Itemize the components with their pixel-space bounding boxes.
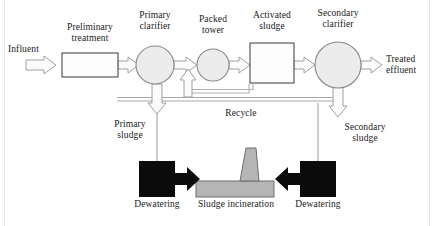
label-treated-effluent: Treated effluent xyxy=(386,54,432,76)
arrow-tower-to-activated xyxy=(229,57,250,73)
label-secondary-sludge: Secondary sludge xyxy=(334,122,396,144)
label-primary-sludge: Primary sludge xyxy=(104,119,156,141)
label-packed-tower: Packed tower xyxy=(185,14,241,36)
sludge-handling xyxy=(139,148,336,197)
arrow-activated-to-secondary xyxy=(294,57,315,73)
arrow-influent xyxy=(26,56,56,74)
label-primary-clarifier: Primary clarifier xyxy=(126,10,184,32)
unit-sludge-incineration-base xyxy=(196,181,274,197)
label-sludge-incineration: Sludge incineration xyxy=(191,199,281,210)
label-secondary-clarifier: Secondary clarifier xyxy=(306,8,370,30)
unit-sludge-incineration-stack xyxy=(240,148,259,181)
unit-secondary-clarifier xyxy=(315,42,361,88)
arrow-clarifier-to-tower xyxy=(174,57,197,73)
recycle-line-inner-b xyxy=(190,78,253,90)
unit-dewatering-primary xyxy=(139,161,175,197)
unit-packed-tower xyxy=(197,49,229,81)
unit-activated-sludge xyxy=(250,43,294,83)
label-influent: Influent xyxy=(8,44,52,55)
arrow-dewatering-secondary-to-incineration xyxy=(275,167,302,191)
unit-dewatering-secondary xyxy=(300,161,336,197)
label-preliminary-treatment: Preliminary treatment xyxy=(62,22,118,44)
unit-preliminary-treatment xyxy=(62,53,118,77)
process-vessels xyxy=(62,42,361,88)
label-recycle: Recycle xyxy=(216,108,266,119)
label-dewatering-secondary: Dewatering xyxy=(284,199,352,210)
label-dewatering-primary: Dewatering xyxy=(123,199,191,210)
unit-primary-clarifier xyxy=(136,46,174,84)
arrow-primary-sludge-down xyxy=(148,84,166,114)
arrow-treated-effluent xyxy=(361,57,382,73)
label-activated-sludge: Activated sludge xyxy=(248,10,296,32)
process-flow-diagram: Influent Preliminary treatment Primary c… xyxy=(0,0,434,226)
